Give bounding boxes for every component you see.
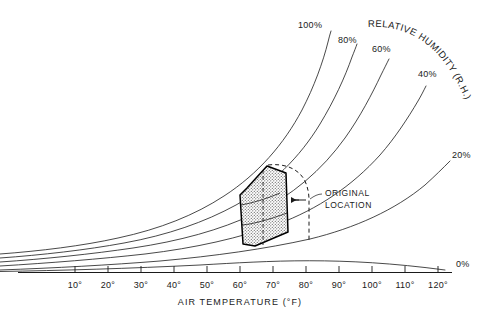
x-tick-label-10: 10° — [68, 280, 83, 290]
x-tick-label-40: 40° — [167, 280, 182, 290]
x-axis-title: AIR TEMPERATURE (°F) — [178, 297, 302, 307]
curve-80-percent — [0, 44, 357, 258]
x-tick-label-70: 70° — [266, 280, 281, 290]
x-tick-label-50: 50° — [200, 280, 215, 290]
x-tick-label-30: 30° — [134, 280, 149, 290]
x-tick-label-110: 110° — [395, 280, 414, 290]
humidity-curve-group — [0, 31, 450, 272]
curve-label-0: 0% — [456, 259, 470, 269]
x-tick-label-60: 60° — [233, 280, 248, 290]
curve-40-percent — [0, 86, 426, 266]
psychrometric-chart: ORIGINAL LOCATION 100% 80% 60% 40% 20% 0… — [0, 0, 482, 313]
x-axis-tick-labels: 10° 20° 30° 40° 50° 60° 70° 80° 90° 100°… — [68, 280, 448, 290]
relative-humidity-title-text: RELATIVE HUMIDITY (R.H.) — [368, 18, 474, 101]
curve-0-percent — [0, 261, 445, 272]
curve-label-20: 20% — [452, 150, 471, 160]
x-axis-ticks — [75, 266, 438, 273]
curve-20-percent — [0, 161, 450, 270]
x-tick-label-120: 120° — [428, 280, 448, 290]
curve-label-60: 60% — [372, 44, 391, 54]
original-location-label-line1: ORIGINAL — [325, 188, 370, 198]
comfort-zone-polygon — [240, 166, 288, 246]
original-location-label-line2: LOCATION — [325, 200, 372, 210]
original-location-leader — [310, 194, 322, 199]
x-tick-label-80: 80° — [299, 280, 314, 290]
curve-label-100: 100% — [298, 20, 322, 30]
curve-60-percent — [0, 59, 389, 262]
curve-label-80: 80% — [338, 35, 357, 45]
curve-label-40: 40% — [418, 69, 437, 79]
x-tick-label-100: 100° — [362, 280, 382, 290]
chart-canvas: ORIGINAL LOCATION 100% 80% 60% 40% 20% 0… — [0, 0, 482, 313]
relative-humidity-title-textpath: RELATIVE HUMIDITY (R.H.) — [368, 18, 474, 101]
x-axis-group: 10° 20° 30° 40° 50° 60° 70° 80° 90° 100°… — [18, 266, 452, 307]
comfort-zone-group — [240, 166, 288, 246]
x-tick-label-90: 90° — [332, 280, 347, 290]
x-tick-label-20: 20° — [101, 280, 116, 290]
